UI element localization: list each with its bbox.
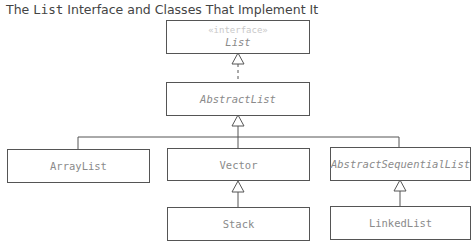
hollow-triangle-icon	[232, 115, 244, 126]
node-label: Vector	[220, 159, 258, 171]
hollow-triangle-icon	[394, 180, 406, 191]
node-abstract-sequential-list: AbstractSequentialList	[330, 147, 471, 181]
node-label: AbstractSequentialList	[331, 158, 470, 170]
node-stack: Stack	[167, 207, 310, 241]
node-label: List	[225, 36, 250, 49]
node-linked-list: LinkedList	[330, 206, 471, 240]
node-array-list: ArrayList	[7, 149, 150, 183]
hollow-triangle-icon	[232, 53, 244, 64]
node-label: ArrayList	[50, 160, 107, 172]
node-list-interface: «interface» List	[166, 20, 310, 54]
node-label: AbstractList	[200, 93, 276, 105]
node-abstract-list: AbstractList	[166, 82, 310, 116]
node-label: LinkedList	[369, 217, 432, 229]
interface-stereotype: «interface»	[208, 25, 268, 36]
node-label: Stack	[223, 218, 255, 230]
node-vector: Vector	[167, 148, 310, 181]
hollow-triangle-icon	[232, 181, 244, 192]
